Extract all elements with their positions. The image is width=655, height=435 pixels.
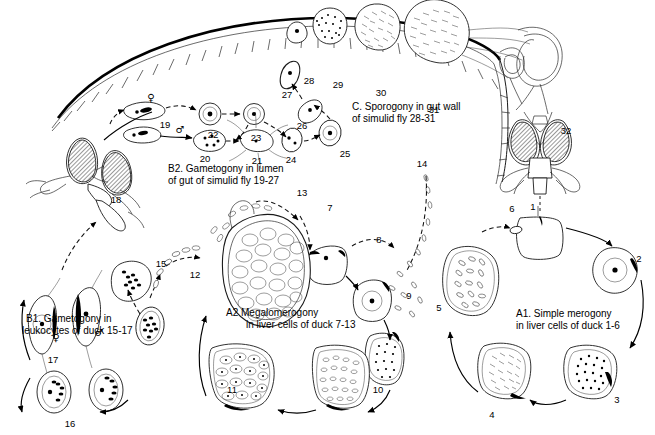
label-25: 25 xyxy=(340,148,351,159)
caption-b2-line2: of gut of simulid fly 19-27 xyxy=(168,175,280,186)
female-symbol-gut: ♀ xyxy=(147,92,154,103)
label-27: 27 xyxy=(282,89,293,100)
label-14: 14 xyxy=(417,158,428,169)
stage-11-megalomeront-cytomeres xyxy=(209,344,274,411)
stage-23-zygote xyxy=(244,104,265,125)
caption-b1-line2: leukocytes of duck 15-17 xyxy=(22,325,133,336)
label-17: 17 xyxy=(48,354,59,365)
label-5: 5 xyxy=(436,302,441,313)
label-2: 2 xyxy=(636,253,641,264)
caption-b1-line1: B1. Gametogony in xyxy=(26,313,112,324)
stage-2-meront xyxy=(593,248,638,294)
caption-c-line1: C. Sporogony in gut wall xyxy=(352,101,460,112)
stage-16-gametocyte-pair-left xyxy=(37,371,71,413)
label-29: 29 xyxy=(333,79,344,90)
label-11: 11 xyxy=(227,384,237,395)
caption-b2-line1: B2. Gametogony in lumen xyxy=(168,163,284,174)
stage-10-megalomeront-merozoites xyxy=(312,345,369,410)
label-26: 26 xyxy=(297,120,308,131)
oocyst-28 xyxy=(287,22,307,43)
label-18: 18 xyxy=(111,194,122,205)
stage-3-meront-nuclei xyxy=(564,345,617,399)
stage-8-megalomeront xyxy=(353,280,391,321)
label-16: 16 xyxy=(65,418,76,429)
label-3: 3 xyxy=(614,394,619,405)
caption-a1-line2: in liver cells of duck 1-6 xyxy=(516,320,620,331)
life-cycle-svg: 1 2 3 4 5 6 7 8 9 10 11 12 13 14 15 16 1… xyxy=(0,0,655,435)
label-13: 13 xyxy=(297,187,308,198)
oocyst-30 xyxy=(355,4,400,50)
stage-7-megalomeront-early xyxy=(306,246,347,285)
label-22: 22 xyxy=(208,129,219,140)
label-30: 30 xyxy=(376,87,387,98)
label-7: 7 xyxy=(327,202,332,213)
label-1: 1 xyxy=(530,201,535,212)
caption-a2-line2: in liver cells of duck 7-13 xyxy=(246,319,356,330)
stage-9-megalomeront-nuclei xyxy=(365,332,404,385)
label-4: 4 xyxy=(489,409,494,420)
diagram-canvas: 1 2 3 4 5 6 7 8 9 10 11 12 13 14 15 16 1… xyxy=(0,0,655,435)
oocyst-29 xyxy=(313,8,347,44)
caption-c-line2: of simulid fly 28-31 xyxy=(352,113,436,124)
label-10: 10 xyxy=(373,384,384,395)
stage-19-female-gametocyte xyxy=(124,102,165,120)
label-32: 32 xyxy=(561,125,572,136)
label-28: 28 xyxy=(304,75,315,86)
label-24: 24 xyxy=(286,154,297,165)
stage-19-male-gametocyte xyxy=(124,127,161,143)
stage-4-mature-meront xyxy=(478,343,531,399)
label-15: 15 xyxy=(156,258,167,269)
caption-a1-line1: A1. Simple merogony xyxy=(516,308,612,319)
label-12: 12 xyxy=(190,269,201,280)
label-19: 19 xyxy=(160,119,171,130)
caption-a2-line1: A2 Megalomerogony xyxy=(226,307,318,318)
label-8: 8 xyxy=(376,234,381,245)
male-symbol-gut: ♂ xyxy=(176,124,185,135)
stage-16-gametocyte-pair-right xyxy=(89,369,123,411)
label-6: 6 xyxy=(509,203,514,214)
stage-22-macrogamete xyxy=(199,103,221,125)
label-23: 23 xyxy=(251,132,262,143)
stage-5-merozoite-release xyxy=(443,246,499,315)
label-9: 9 xyxy=(406,290,411,301)
